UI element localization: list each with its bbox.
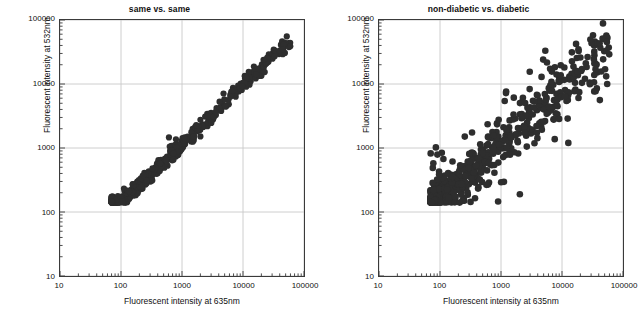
data-point — [461, 133, 468, 140]
data-point — [445, 194, 452, 201]
data-point — [495, 198, 502, 205]
data-point — [262, 69, 268, 75]
x-tick-label: 100000 — [292, 281, 319, 290]
panel-same-vs-same: same vs. same Fluorescent intensity at 5… — [0, 0, 319, 318]
data-point — [436, 171, 443, 178]
data-point — [272, 53, 278, 59]
data-point — [556, 116, 563, 123]
data-point — [575, 46, 582, 53]
data-point — [526, 86, 533, 93]
data-point — [562, 93, 569, 100]
data-point — [517, 191, 524, 198]
data-point — [449, 158, 456, 165]
data-point — [604, 81, 611, 88]
data-point — [495, 159, 502, 166]
data-point — [166, 134, 172, 140]
data-point — [449, 174, 456, 181]
data-point — [466, 159, 473, 166]
data-point — [434, 151, 441, 158]
data-point — [501, 98, 508, 105]
data-point — [467, 199, 474, 206]
data-point — [126, 188, 132, 194]
data-point — [531, 98, 538, 105]
data-points — [427, 20, 612, 206]
data-point — [600, 20, 607, 27]
data-point — [190, 134, 196, 140]
data-point — [503, 88, 510, 95]
data-point — [496, 141, 503, 148]
data-point — [469, 129, 476, 136]
data-points — [108, 33, 293, 205]
data-point — [554, 103, 561, 110]
data-point — [521, 129, 528, 136]
data-point — [534, 129, 541, 136]
x-tick-label: 10 — [55, 281, 64, 290]
data-point — [523, 143, 530, 150]
x-tick-label: 10000 — [551, 281, 573, 290]
data-point — [471, 169, 478, 176]
data-point — [485, 141, 492, 148]
data-point — [140, 173, 146, 179]
data-point — [227, 94, 233, 100]
data-point — [163, 157, 169, 163]
data-point — [430, 187, 437, 194]
data-point — [502, 137, 509, 144]
data-point — [181, 135, 187, 141]
data-point — [478, 169, 485, 176]
x-tick-label: 10 — [374, 281, 383, 290]
data-point — [551, 136, 558, 143]
panel-nondiabetic-vs-diabetic: non-diabetic vs. diabetic Fluorescent in… — [319, 0, 638, 318]
data-point — [577, 54, 584, 61]
data-point — [518, 115, 525, 122]
data-point — [504, 144, 511, 151]
data-point — [108, 198, 114, 204]
data-point — [485, 134, 492, 141]
data-point — [484, 121, 491, 128]
data-point — [287, 43, 293, 49]
data-point — [429, 199, 436, 206]
data-point — [466, 151, 473, 158]
data-point — [253, 71, 259, 77]
data-point — [246, 69, 252, 75]
data-point — [552, 110, 559, 117]
data-point — [429, 180, 436, 187]
data-point — [457, 162, 464, 169]
data-point — [484, 167, 491, 174]
data-point — [216, 99, 222, 105]
data-point — [557, 62, 564, 69]
data-point — [510, 111, 517, 118]
data-point — [444, 186, 451, 193]
data-point — [576, 89, 583, 96]
data-point — [587, 36, 594, 43]
data-point — [149, 177, 155, 183]
data-point — [603, 47, 610, 54]
data-point — [579, 80, 586, 87]
data-point — [592, 66, 599, 73]
data-point — [565, 140, 572, 147]
data-point — [458, 181, 465, 188]
data-point — [243, 74, 249, 80]
data-point — [485, 160, 492, 167]
scatter-canvas — [379, 20, 623, 276]
data-point — [557, 72, 564, 79]
data-point — [491, 170, 498, 177]
data-point — [284, 33, 290, 39]
plot-area — [378, 19, 624, 277]
data-point — [458, 191, 465, 198]
data-point — [430, 160, 437, 167]
data-point — [220, 90, 226, 96]
data-point — [498, 179, 505, 186]
data-point — [534, 92, 541, 99]
data-point — [119, 198, 125, 204]
data-point — [515, 125, 522, 132]
data-point — [531, 140, 538, 147]
data-point — [464, 189, 471, 196]
data-point — [543, 96, 550, 103]
data-point — [473, 162, 480, 169]
plot-area — [59, 19, 305, 277]
data-point — [476, 155, 483, 162]
data-point — [157, 160, 163, 166]
data-point — [483, 182, 490, 189]
data-point — [543, 111, 550, 118]
data-point — [477, 141, 484, 148]
